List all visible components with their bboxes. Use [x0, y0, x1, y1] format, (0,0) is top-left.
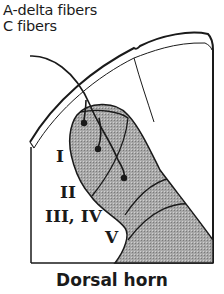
dorsal-horn-diagram	[0, 0, 224, 294]
diagram-caption: Dorsal horn	[0, 270, 224, 290]
fiber-terminal-3	[121, 175, 127, 181]
lamina-label-iii-iv: III, IV	[45, 208, 102, 225]
lamina-label-ii: II	[60, 184, 76, 201]
dorsal-horn-gray-matter	[70, 104, 213, 263]
fiber-terminal-1	[81, 120, 87, 126]
lamina-label-v: V	[105, 229, 118, 246]
fiber-terminal-2	[95, 146, 101, 152]
lamina-label-i: I	[56, 148, 64, 165]
median-septum	[134, 58, 154, 122]
